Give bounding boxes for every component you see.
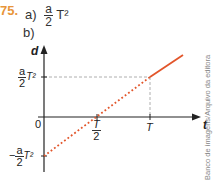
x-axis-arrow-icon (192, 114, 201, 121)
y-tick-negative-label: − a 2 T² (9, 145, 33, 168)
fraction-denominator: 2 (15, 157, 23, 168)
origin-label: 0 (35, 118, 41, 130)
label-suffix: T² (26, 71, 35, 82)
image-credit: Banco de imagens/Arquivo da editora (203, 30, 215, 180)
x-tick-T-label: T (146, 121, 153, 133)
series-solid (150, 55, 183, 77)
fraction-denominator: 2 (92, 131, 101, 142)
x-tick-half-label: T 2 (92, 119, 101, 142)
y-axis-label: d (31, 44, 38, 58)
y-axis-arrow-icon (41, 45, 48, 54)
y-tick-positive-label: a 2 T² (18, 66, 36, 89)
label-suffix: T² (24, 150, 33, 161)
fraction-denominator: 2 (18, 78, 26, 89)
